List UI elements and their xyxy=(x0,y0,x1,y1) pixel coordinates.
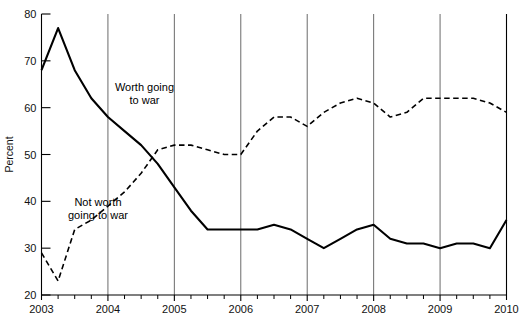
ytick-label-30: 30 xyxy=(24,242,36,254)
worth-going-to-war-label-line1: Worth going xyxy=(115,81,174,93)
xtick-label-2007: 2007 xyxy=(295,303,319,315)
xtick-label-2005: 2005 xyxy=(162,303,186,315)
xtick-label-2004: 2004 xyxy=(96,303,120,315)
xtick-label-2008: 2008 xyxy=(361,303,385,315)
chart-container: 20304050607080 2003200420052006200720082… xyxy=(0,0,521,323)
ytick-label-50: 50 xyxy=(24,149,36,161)
xtick-label-2003: 2003 xyxy=(29,303,53,315)
xtick-label-2009: 2009 xyxy=(428,303,452,315)
y-axis-title: Percent xyxy=(3,136,15,172)
not-worth-going-to-war-label-line2: going to war xyxy=(68,209,128,221)
ytick-label-80: 80 xyxy=(24,8,36,20)
yaxis-title-group: Percent xyxy=(3,136,15,172)
line-chart: 20304050607080 2003200420052006200720082… xyxy=(0,0,521,323)
ytick-label-70: 70 xyxy=(24,55,36,67)
chart-background xyxy=(0,0,521,323)
worth-going-to-war-label-line2: to war xyxy=(129,94,159,106)
xtick-label-2006: 2006 xyxy=(229,303,253,315)
ytick-label-40: 40 xyxy=(24,195,36,207)
ytick-label-20: 20 xyxy=(24,289,36,301)
not-worth-going-to-war-label-line1: Not worth xyxy=(74,196,121,208)
ytick-label-60: 60 xyxy=(24,102,36,114)
xtick-label-2010: 2010 xyxy=(494,303,518,315)
